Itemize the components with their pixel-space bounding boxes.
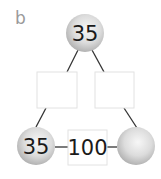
circle-bottom-right[interactable] (117, 127, 155, 165)
circle-bottom-left-value: 35 (23, 135, 50, 159)
edge-top-right (92, 50, 104, 72)
arithmagon-diagram: 35 35 100 (0, 0, 161, 179)
box-left[interactable] (37, 72, 77, 108)
edge-top-left (67, 50, 78, 72)
edge-left-bottom (36, 108, 46, 127)
box-bottom-value: 100 (67, 136, 107, 160)
circle-top-value: 35 (72, 22, 99, 46)
edge-right-bottom (124, 108, 137, 128)
box-right[interactable] (95, 72, 134, 108)
